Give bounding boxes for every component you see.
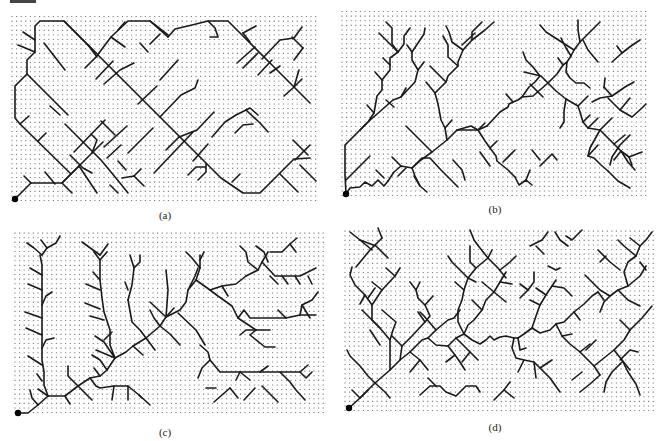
branch — [604, 78, 605, 88]
branch — [455, 282, 464, 290]
branch — [536, 288, 546, 295]
branch — [612, 40, 640, 62]
branch — [600, 256, 606, 262]
branch — [186, 252, 200, 268]
branch — [562, 334, 572, 336]
branch — [532, 150, 540, 160]
branch — [418, 62, 424, 70]
dot-grid — [11, 16, 316, 201]
branch — [530, 232, 548, 246]
branch — [18, 45, 35, 52]
branch — [292, 37, 303, 48]
branch — [308, 276, 312, 284]
tree-panels-canvas — [0, 0, 661, 441]
branch — [250, 330, 275, 347]
branch — [30, 268, 42, 275]
branch — [160, 80, 198, 117]
branch — [240, 372, 250, 380]
branch — [620, 98, 630, 110]
branch — [166, 255, 200, 317]
branch — [139, 395, 142, 398]
branch — [150, 310, 160, 326]
branch — [101, 121, 115, 135]
branch — [346, 156, 370, 180]
branch — [446, 355, 455, 362]
branch — [443, 36, 458, 66]
branch — [406, 126, 432, 152]
branch — [345, 28, 410, 194]
branch — [28, 356, 42, 365]
branch — [260, 366, 268, 372]
root-outlet-dot — [15, 410, 21, 416]
branch — [295, 276, 300, 284]
branch — [392, 157, 401, 166]
branch — [412, 168, 427, 192]
branch — [262, 386, 278, 402]
branch — [552, 286, 572, 296]
branch — [222, 286, 228, 296]
branch — [445, 120, 452, 128]
branch — [490, 141, 497, 148]
branch — [574, 292, 598, 312]
branch — [360, 390, 368, 398]
branch — [487, 83, 548, 126]
branch — [556, 324, 600, 375]
branch — [621, 151, 635, 170]
branch — [133, 346, 143, 355]
branch — [382, 310, 396, 340]
branch — [604, 87, 612, 96]
branch — [140, 43, 148, 52]
branch-network — [18, 236, 318, 413]
branch — [578, 96, 588, 106]
branch — [237, 47, 255, 63]
figure: (a) (b) (c) (d) — [0, 0, 661, 441]
branch — [494, 292, 506, 302]
branch — [290, 244, 296, 252]
branch — [150, 21, 168, 35]
branch-network — [15, 21, 316, 199]
branch — [400, 282, 430, 360]
branch — [518, 360, 524, 372]
branch — [360, 123, 367, 130]
branch — [386, 268, 395, 276]
dot-grid — [344, 231, 653, 412]
branch — [378, 228, 382, 238]
branch — [375, 72, 382, 80]
branch — [134, 255, 140, 268]
branch — [383, 58, 390, 65]
branch — [200, 345, 308, 372]
branch — [82, 242, 100, 255]
branch — [472, 22, 482, 40]
branch — [270, 276, 278, 284]
branch — [356, 238, 382, 267]
branch — [376, 170, 384, 178]
branch — [566, 62, 590, 88]
branch — [86, 284, 100, 290]
branch — [470, 230, 488, 258]
branch — [368, 288, 375, 298]
branch — [629, 152, 642, 157]
branch — [420, 386, 480, 396]
branch — [580, 375, 600, 392]
branch-network — [347, 228, 652, 408]
branch — [78, 386, 92, 400]
branch — [88, 45, 97, 57]
branch — [128, 255, 134, 300]
branch — [300, 165, 316, 181]
panel-label-b: (b) — [489, 203, 502, 215]
branch — [515, 177, 532, 185]
branch — [347, 350, 375, 383]
branch — [302, 305, 310, 318]
branch — [282, 276, 288, 284]
branch — [44, 43, 65, 70]
branch — [506, 94, 513, 102]
dot-grid — [14, 233, 323, 414]
branch — [293, 140, 308, 155]
branch — [128, 300, 146, 338]
branch — [556, 312, 574, 324]
panel-label-a: (a) — [159, 209, 171, 221]
root-outlet-dot — [12, 196, 18, 202]
branch — [622, 360, 640, 395]
branch — [530, 300, 540, 305]
branch — [196, 280, 256, 330]
